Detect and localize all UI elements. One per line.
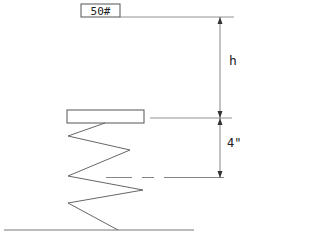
compression-label: 4" [227,136,241,150]
arrow-up-icon [218,17,223,24]
arrow-down-icon [218,111,223,118]
spring-plate [67,110,144,123]
weight-label: 50# [91,5,111,18]
spring [68,123,143,230]
arrow-up-icon [218,118,223,125]
arrow-down-icon [218,171,223,178]
spring-diagram: 50# h 4" [0,0,313,237]
height-label: h [229,53,237,68]
